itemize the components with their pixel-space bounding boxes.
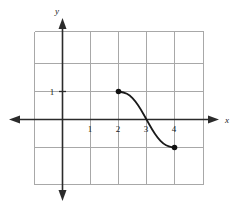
curve-endpoint-start <box>116 89 122 95</box>
y-axis-arrow-down <box>59 190 67 201</box>
x-axis-arrow-right <box>208 116 219 124</box>
curve-endpoint-end <box>172 145 178 151</box>
y-axis-arrow-up <box>59 18 67 29</box>
x-axis-arrow-left <box>9 116 20 124</box>
y-tick-label-1: 1 <box>50 87 55 97</box>
axis-arrowheads <box>9 18 219 201</box>
coordinate-plane-svg: y x 1 1 2 3 4 <box>0 0 238 204</box>
x-tick-label-3: 3 <box>144 124 149 134</box>
x-tick-label-2: 2 <box>116 124 121 134</box>
graph-figure: y x 1 1 2 3 4 <box>0 0 238 204</box>
x-tick-label-4: 4 <box>172 124 177 134</box>
axes <box>14 24 214 196</box>
y-axis-label: y <box>54 6 59 16</box>
x-tick-label-1: 1 <box>88 124 93 134</box>
grid-lines <box>35 32 204 185</box>
x-axis-label: x <box>224 115 229 125</box>
